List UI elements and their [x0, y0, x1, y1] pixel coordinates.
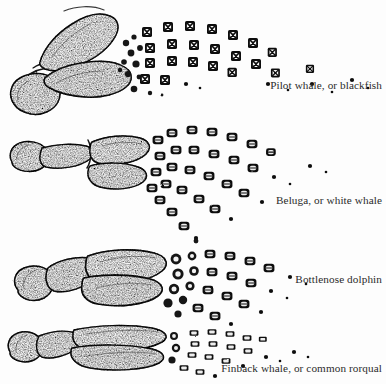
specimen-bottlenose-dolphin — [15, 239, 308, 327]
specimen-beluga — [10, 126, 327, 240]
specimen-pilot-whale — [11, 7, 370, 115]
caption-beluga: Beluga, or white whale — [276, 194, 382, 206]
flipper-illustration — [0, 0, 386, 384]
caption-finback-whale: Finback whale, or common rorqual — [221, 362, 382, 374]
caption-bottlenose-dolphin: Bottlenose dolphin — [295, 273, 382, 285]
cetacean-flipper-plate: Pilot whale, or blackfish Beluga, or whi… — [0, 0, 386, 384]
caption-pilot-whale: Pilot whale, or blackfish — [270, 79, 382, 91]
